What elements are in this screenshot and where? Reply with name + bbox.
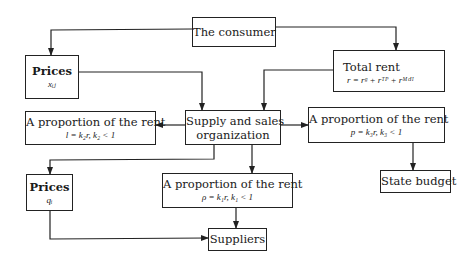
node-suppliers: Suppliers (208, 228, 267, 251)
node-title: A proportion of the rent (309, 112, 444, 126)
node-title-line1: Supply and sales (186, 114, 280, 128)
node-formula: r = rᵍ + rᵀᴾ + rᴹᶜᴴ (343, 74, 444, 86)
edge-prices-q-suppliers (50, 210, 208, 239)
edge-consumer-prices-x (51, 29, 192, 55)
edge-total-rent-supply (264, 70, 333, 110)
node-title: State budget (381, 174, 450, 188)
node-title: A proportion of the rent (26, 115, 155, 129)
node-formula: qᵢ (27, 194, 72, 206)
node-title: Suppliers (209, 232, 266, 246)
node-formula: xᵢⱼ (26, 78, 78, 90)
node-supply-sales-organization: Supply and sales organization (185, 110, 281, 145)
node-proportion-left: A proportion of the rent l = k₂r, k₂ < 1 (25, 111, 156, 145)
node-title: Prices (26, 64, 78, 78)
node-formula: p = k₃r, k₃ < 1 (309, 126, 444, 138)
node-prices-x: Prices xᵢⱼ (25, 55, 79, 99)
edge-consumer-total-rent (275, 27, 396, 50)
edge-prices-x-supply (78, 72, 202, 110)
node-title-line2: organization (186, 128, 280, 142)
node-proportion-right: A proportion of the rent p = k₃r, k₃ < 1 (308, 107, 445, 143)
node-title: A proportion of the rent (163, 177, 292, 191)
node-formula: ρ = k₁r, k₁ < 1 (163, 191, 292, 203)
edge-supply-prices-q (50, 145, 214, 174)
node-title: Total rent (343, 60, 444, 74)
node-total-rent: Total rent r = rᵍ + rᵀᴾ + rᴹᶜᴴ (333, 50, 445, 92)
node-formula: l = k₂r, k₂ < 1 (26, 129, 155, 141)
node-state-budget: State budget (380, 170, 451, 193)
node-proportion-mid: A proportion of the rent ρ = k₁r, k₁ < 1 (162, 173, 293, 208)
node-prices-q: Prices qᵢ (26, 174, 73, 211)
node-title: The consumer (193, 25, 275, 39)
node-consumer: The consumer (192, 17, 276, 47)
node-title: Prices (27, 180, 72, 194)
